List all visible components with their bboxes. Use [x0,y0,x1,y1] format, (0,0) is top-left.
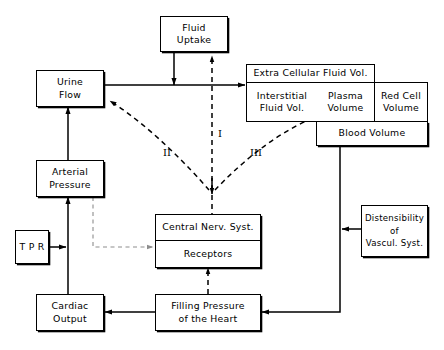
node-plasma-volume[interactable]: Plasma Volume [316,82,375,122]
node-cardiac-output-line-2: Output [53,313,87,326]
connector-bloodvolume-to-fillingpressure [262,145,340,312]
node-plasma-volume-line-1: Plasma [328,90,363,103]
node-blood-volume-label: Blood Volume [339,127,406,140]
node-red-cell-volume-line-1: Red Cell [381,90,421,103]
node-red-cell-volume[interactable]: Red Cell Volume [374,82,428,122]
node-filling-pressure-line-1: Filling Pressure [171,300,244,313]
node-filling-pressure-line-2: of the Heart [178,313,237,326]
node-fluid-uptake-line-2: Uptake [177,34,211,47]
node-urine-flow[interactable]: Urine Flow [36,70,104,107]
node-receptors-label: Receptors [184,248,233,261]
node-central-nerv-syst-label: Central Nerv. Syst. [162,221,254,234]
annotation-pathway-3: III [250,147,262,158]
node-cardiac-output[interactable]: Cardiac Output [36,294,104,331]
node-urine-flow-line-2: Flow [59,89,81,102]
node-cardiac-output-line-1: Cardiac [52,300,89,313]
node-fluid-uptake-line-1: Fluid [182,22,206,35]
node-arterial-pressure[interactable]: Arterial Pressure [36,160,104,197]
node-tpr-line-1: T P R [20,241,45,254]
node-interstitial-fluid-vol-line-1: Interstitial [257,90,307,103]
node-extra-cellular-fluid-vol-label: Extra Cellular Fluid Vol. [253,67,367,80]
node-tpr[interactable]: T P R [15,230,49,264]
node-red-cell-volume-line-2: Volume [383,102,419,115]
node-arterial-pressure-line-2: Pressure [49,179,91,192]
node-receptors[interactable]: Receptors [156,241,260,267]
flow-diagram: Fluid Uptake Urine Flow Arterial Pressur… [0,0,444,350]
node-interstitial-fluid-vol[interactable]: Interstitial Fluid Vol. [246,82,317,122]
node-fluid-uptake[interactable]: Fluid Uptake [160,16,228,52]
node-distensibility-line-1: Distensibility [365,212,424,225]
fluid-compartment-cluster: Extra Cellular Fluid Vol. Interstitial F… [246,64,428,146]
connector-pathway-2 [110,101,209,190]
node-central-nerv-syst-block[interactable]: Central Nerv. Syst. Receptors [155,214,261,268]
node-distensibility-line-2: of [390,225,399,238]
node-distensibility-of-vascul-syst[interactable]: Distensibility of Vascul. Syst. [361,205,428,257]
node-extra-cellular-fluid-vol[interactable]: Extra Cellular Fluid Vol. [246,64,375,83]
node-urine-flow-line-1: Urine [57,76,83,89]
connector-arterialpressure-to-cns [93,197,153,247]
node-central-nerv-syst[interactable]: Central Nerv. Syst. [156,215,260,241]
node-filling-pressure-of-the-heart[interactable]: Filling Pressure of the Heart [155,294,261,331]
node-interstitial-fluid-vol-line-2: Fluid Vol. [260,102,305,115]
node-blood-volume[interactable]: Blood Volume [316,121,428,146]
annotation-pathway-2: II [163,147,171,158]
node-plasma-volume-line-2: Volume [327,102,363,115]
annotation-pathway-1: I [218,128,222,139]
node-distensibility-line-3: Vascul. Syst. [366,237,423,250]
node-arterial-pressure-line-1: Arterial [52,166,88,179]
